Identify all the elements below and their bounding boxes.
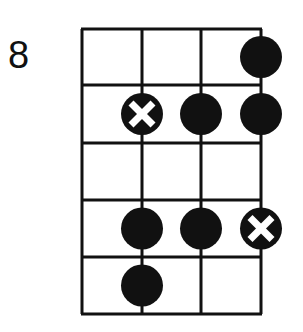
note-dot (121, 208, 163, 250)
root-note-marker (121, 93, 163, 135)
root-note-marker (240, 208, 282, 250)
note-dot (240, 36, 282, 78)
note-dot (121, 265, 163, 307)
note-dot (180, 93, 222, 135)
note-dot (180, 208, 222, 250)
fretboard-diagram (0, 0, 303, 332)
note-dot (240, 93, 282, 135)
